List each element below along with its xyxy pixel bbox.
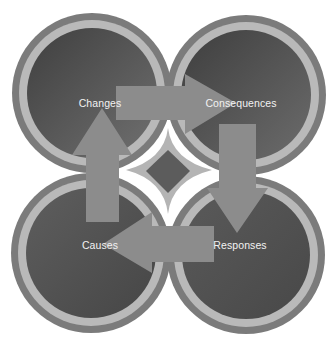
diagram-graphics [0, 0, 335, 343]
center-diamond [146, 150, 190, 193]
node-label-changes: Changes [79, 97, 122, 109]
cycle-diagram: Changes Consequences Causes Responses [0, 0, 335, 343]
node-label-consequences: Consequences [205, 97, 276, 109]
node-label-responses: Responses [213, 239, 266, 251]
node-label-causes: Causes [82, 239, 118, 251]
